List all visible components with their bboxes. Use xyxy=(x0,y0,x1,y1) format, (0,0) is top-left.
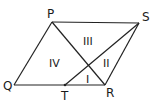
segment-sr xyxy=(105,23,139,85)
vertex-label-p: P xyxy=(47,7,54,21)
region-label-i: I xyxy=(86,73,89,86)
diagonal-pr xyxy=(52,22,105,85)
point-t-dot xyxy=(64,84,67,87)
segment-ps xyxy=(52,22,139,23)
segment-st xyxy=(65,23,139,85)
vertex-label-s: S xyxy=(142,10,150,24)
region-label-iv: IV xyxy=(49,57,60,70)
vertex-label-q: Q xyxy=(3,79,12,93)
geometry-diagram: P S Q R T I II III IV xyxy=(0,0,153,105)
point-label-t: T xyxy=(60,89,69,103)
segment-qp xyxy=(14,22,52,85)
region-label-iii: III xyxy=(83,35,93,48)
region-label-ii: II xyxy=(103,57,110,70)
vertex-label-r: R xyxy=(106,86,114,100)
